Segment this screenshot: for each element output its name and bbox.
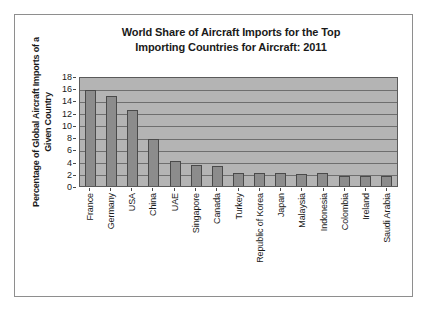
x-axis-tick-label: UAE — [170, 193, 179, 211]
bar — [339, 176, 350, 186]
x-axis-tick-mark — [110, 188, 111, 191]
x-axis-tick: UAE — [168, 188, 182, 294]
x-axis-tick-mark — [131, 188, 132, 191]
x-axis-tick-label: Indonesia — [319, 193, 328, 231]
x-axis-tick: France — [83, 188, 97, 294]
bar — [148, 139, 159, 186]
bar — [275, 173, 286, 186]
x-axis-tick-mark — [259, 188, 260, 191]
y-axis-tick-label: 6 — [67, 146, 72, 155]
y-axis-tick-mark — [73, 101, 76, 102]
x-axis-tick-mark — [195, 188, 196, 191]
bar — [106, 96, 117, 186]
y-axis-tick-mark — [73, 187, 76, 188]
chart-frame: World Share of Aircraft Imports for the … — [14, 14, 413, 297]
bar — [170, 161, 181, 186]
x-axis-tick: Malaysia — [295, 188, 309, 294]
x-axis-tick-label: Germany — [106, 193, 115, 229]
x-axis-tick-mark — [238, 188, 239, 191]
x-axis-tick: Colombia — [338, 188, 352, 294]
y-axis-tick-labels: 024681012141618 — [55, 71, 76, 193]
x-axis-tick: Indonesia — [317, 188, 331, 294]
y-axis-tick-mark — [73, 77, 76, 78]
x-axis-tick-label: Ireland — [362, 193, 371, 220]
bar — [85, 90, 96, 186]
y-axis-tick-label: 8 — [67, 134, 72, 143]
x-axis-tick: Germany — [104, 188, 118, 294]
x-axis-tick: Singapore — [189, 188, 203, 294]
bar — [233, 173, 244, 186]
x-axis-tick-mark — [174, 188, 175, 191]
y-axis-title-line-1: Percentage of Global Aircraft Imports of… — [30, 27, 42, 217]
x-axis-tick-mark — [301, 188, 302, 191]
x-axis-tick-label: France — [85, 193, 94, 220]
x-axis-tick-label: Turkey — [234, 193, 243, 220]
plot-area — [79, 77, 398, 187]
y-axis-tick-mark — [73, 89, 76, 90]
bar — [127, 110, 138, 186]
x-axis-tick: Ireland — [359, 188, 373, 294]
x-axis-tick-mark — [280, 188, 281, 191]
chart-title-line-1: World Share of Aircraft Imports for the … — [61, 25, 401, 40]
x-axis-tick: Turkey — [232, 188, 246, 294]
y-axis-tick-mark — [73, 126, 76, 127]
chart-title-line-2: Importing Countries for Aircraft: 2011 — [61, 40, 401, 55]
bar-series — [80, 78, 397, 186]
x-axis-tick-label: USA — [128, 193, 137, 211]
bar — [381, 176, 392, 186]
y-axis-tick-mark — [73, 150, 76, 151]
x-axis-tick: Canada — [210, 188, 224, 294]
x-axis-tick-label: Malaysia — [298, 193, 307, 228]
y-axis-tick-mark — [73, 138, 76, 139]
x-axis-tick-label: Canada — [213, 193, 222, 224]
x-axis-tick-label: China — [149, 193, 158, 216]
y-axis-tick-label: 10 — [62, 122, 72, 131]
x-axis-tick-mark — [89, 188, 90, 191]
chart-title: World Share of Aircraft Imports for the … — [61, 25, 401, 55]
x-axis-tick-mark — [386, 188, 387, 191]
x-axis-tick-mark — [365, 188, 366, 191]
y-axis-tick-label: 4 — [67, 159, 72, 168]
x-axis-tick: Saudi Arabia — [380, 188, 394, 294]
y-axis-tick-mark — [73, 114, 76, 115]
y-axis-title-line-2: Given Country — [42, 27, 54, 217]
bar — [212, 166, 223, 186]
y-axis-tick-label: 18 — [62, 73, 72, 82]
x-axis-tick-mark — [152, 188, 153, 191]
y-axis-tick-label: 2 — [67, 171, 72, 180]
x-axis-tick-label: Japan — [277, 193, 286, 217]
bar — [191, 165, 202, 186]
bar — [360, 176, 371, 186]
x-axis-tick-label: Republic of Korea — [255, 193, 264, 263]
x-axis-tick-mark — [323, 188, 324, 191]
x-axis-tick-labels: FranceGermanyUSAChinaUAESingaporeCanadaT… — [79, 188, 398, 298]
y-axis-tick-label: 14 — [62, 97, 72, 106]
y-axis-tick-label: 12 — [62, 110, 72, 119]
x-axis-tick: USA — [125, 188, 139, 294]
x-axis-tick-label: Singapore — [191, 193, 200, 233]
x-axis-tick-mark — [344, 188, 345, 191]
x-axis-tick-label: Saudi Arabia — [383, 193, 392, 243]
y-axis-tick-mark — [73, 163, 76, 164]
bar — [296, 174, 307, 186]
chart-figure: World Share of Aircraft Imports for the … — [0, 0, 427, 315]
x-axis-tick-label: Colombia — [340, 193, 349, 230]
y-axis-tick-label: 0 — [67, 183, 72, 192]
x-axis-tick: China — [146, 188, 160, 294]
y-axis-tick-mark — [73, 175, 76, 176]
y-axis-tick-label: 16 — [62, 85, 72, 94]
bar — [317, 173, 328, 186]
x-axis-tick-mark — [216, 188, 217, 191]
x-axis-tick: Japan — [274, 188, 288, 294]
bar — [254, 173, 265, 186]
x-axis-tick: Republic of Korea — [253, 188, 267, 294]
